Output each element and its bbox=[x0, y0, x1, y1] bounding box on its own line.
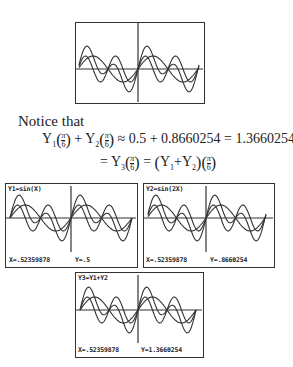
function-label: Y2=sin(2X) bbox=[146, 185, 183, 193]
x-readout: X=.52359878 bbox=[9, 256, 50, 264]
x-readout: X=.52359878 bbox=[146, 256, 187, 264]
y-readout: Y=.8660254 bbox=[210, 256, 247, 264]
top-graph bbox=[75, 22, 205, 104]
x-readout: X=.52359878 bbox=[78, 346, 119, 354]
calculator-screen-y1: Y1=sin(X) X=.52359878 Y=.5 bbox=[5, 183, 138, 268]
screen-y2-plot bbox=[144, 184, 273, 266]
y-readout: Y=.5 bbox=[75, 256, 90, 264]
function-label: Y1=sin(X) bbox=[8, 185, 41, 193]
screen-y1-plot bbox=[6, 184, 136, 266]
equation-line-1: Y1(π6) + Y2(π6) ≈ 0.5 + 0.8660254 = 1.36… bbox=[42, 131, 293, 149]
screen-y3-plot bbox=[76, 273, 202, 356]
calculator-screen-y2: Y2=sin(2X) X=.52359878 Y=.8660254 bbox=[143, 183, 275, 268]
top-graph-plot bbox=[76, 23, 203, 102]
equation-line-2: = Y3(π6) = (Y1+Y2)(π6) bbox=[100, 154, 216, 172]
notice-text: Notice that bbox=[18, 113, 84, 130]
function-label: Y3=Y1+Y2 bbox=[78, 274, 108, 282]
y-readout: Y=1.3660254 bbox=[141, 346, 182, 354]
calculator-screen-y3: Y3=Y1+Y2 X=.52359878 Y=1.3660254 bbox=[75, 272, 204, 358]
